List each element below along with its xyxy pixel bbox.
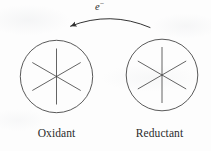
electron-transfer-arrow: [71, 19, 151, 28]
reaction-scheme-figure: e− Oxidant Reductant: [0, 0, 211, 151]
reductant-spokes: [138, 47, 186, 103]
reductant-species-group: [126, 39, 198, 111]
oxidant-spokes: [32, 49, 80, 105]
reductant-caption: Reductant: [108, 127, 211, 139]
oxidant-caption: Oxidant: [0, 127, 113, 139]
electron-charge-superscript: −: [100, 0, 104, 8]
electron-arrow-path: [71, 19, 151, 28]
electron-label: e−: [95, 1, 104, 12]
oxidant-species-group: [20, 40, 92, 112]
